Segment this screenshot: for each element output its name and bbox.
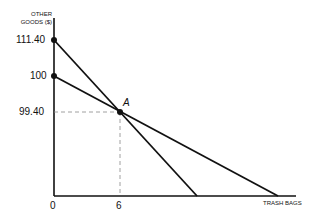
y-axis-title-line1: OTHER — [14, 10, 52, 18]
y-tick-100: 100 — [30, 70, 47, 81]
point-111-40 — [51, 37, 57, 43]
point-100 — [51, 73, 57, 79]
x-axis-title: TRASH BAGS — [263, 200, 302, 206]
point-a-label: A — [123, 97, 130, 108]
y-axis-title-line2: GOODS ($) — [14, 18, 52, 26]
x-tick-0: 0 — [50, 200, 56, 211]
chart-canvas — [0, 0, 323, 223]
point-a — [117, 109, 123, 115]
steep-budget-line — [54, 40, 197, 196]
x-tick-6: 6 — [116, 200, 122, 211]
y-tick-111-40: 111.40 — [16, 34, 45, 45]
shallow-budget-line — [54, 76, 278, 196]
y-axis-title: OTHER GOODS ($) — [14, 10, 52, 26]
y-tick-99-40: 99.40 — [19, 106, 44, 117]
